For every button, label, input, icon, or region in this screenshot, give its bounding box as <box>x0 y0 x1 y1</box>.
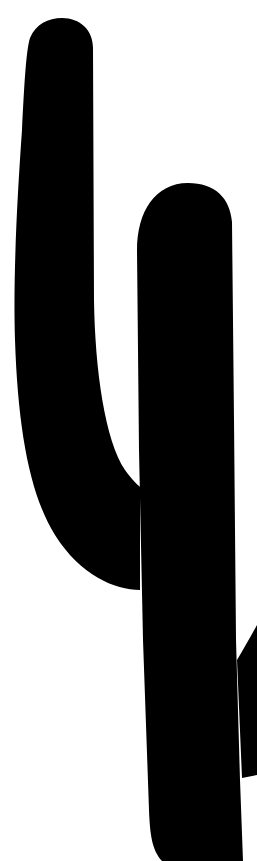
cactus-left-arm <box>14 18 140 590</box>
cactus-illustration: Black saguaro cactus silhouette <box>0 0 257 861</box>
cactus-trunk <box>137 183 243 861</box>
cactus-icon <box>0 0 257 861</box>
cactus-right-arm <box>237 625 257 778</box>
